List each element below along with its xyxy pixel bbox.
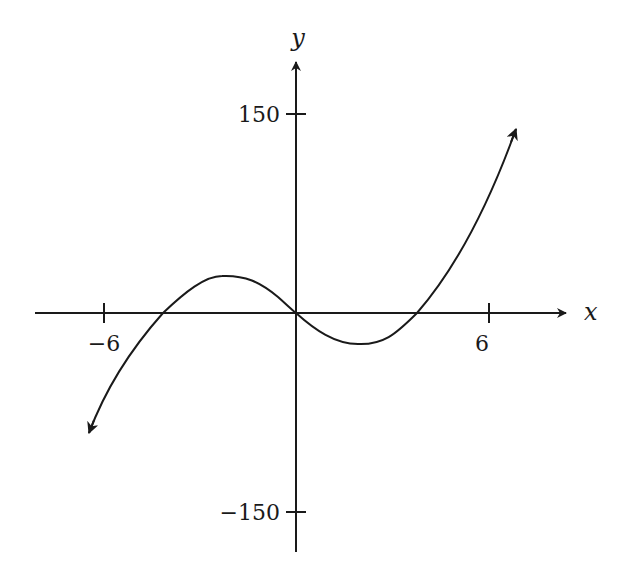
x-axis-label: x (584, 298, 598, 326)
x-tick-label-6: 6 (475, 331, 489, 356)
x-tick-label-neg6: −6 (88, 331, 120, 356)
cubic-curve (89, 129, 516, 433)
curve-arrow-left (89, 420, 94, 433)
y-tick-label-150: 150 (238, 102, 280, 127)
chart: −6 6 150 −150 x y (0, 0, 630, 575)
y-axis-label: y (290, 24, 305, 52)
curve-arrow-right (511, 129, 516, 142)
y-tick-label-neg150: −150 (220, 500, 280, 525)
